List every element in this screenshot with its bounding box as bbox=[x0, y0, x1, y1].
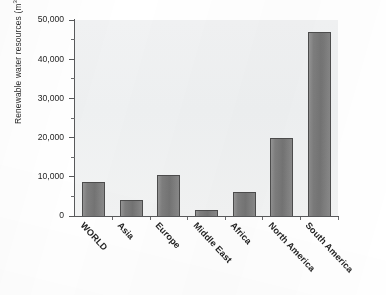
bar bbox=[308, 32, 331, 216]
x-axis-tick bbox=[150, 217, 151, 220]
y-axis-tick-label: 0 bbox=[18, 211, 64, 220]
x-axis-tick bbox=[187, 217, 188, 220]
x-axis-tick-label[interactable]: Asia bbox=[116, 221, 136, 242]
bar bbox=[82, 182, 105, 216]
bar bbox=[233, 192, 256, 216]
y-axis-title-superscript: 3 bbox=[12, 0, 18, 3]
x-axis-tick-label[interactable]: WORLD bbox=[78, 221, 108, 253]
x-axis-tick bbox=[262, 217, 263, 220]
bar-chart-figure: Renewable water resources (m3) per capit… bbox=[0, 0, 386, 295]
x-axis-tick-label[interactable]: Middle East bbox=[191, 221, 233, 265]
x-axis-tick bbox=[225, 217, 226, 220]
y-axis-tick-label: 30,000 bbox=[18, 94, 64, 103]
x-axis-tick-label[interactable]: Europe bbox=[153, 221, 181, 251]
bar bbox=[157, 175, 180, 216]
y-axis-tick-label: 20,000 bbox=[18, 133, 64, 142]
bar bbox=[270, 138, 293, 216]
y-axis-tick-label: 50,000 bbox=[18, 15, 64, 24]
y-axis-tick-label: 10,000 bbox=[18, 172, 64, 181]
x-axis-tick-label[interactable]: Africa bbox=[228, 221, 253, 246]
x-axis-tick bbox=[112, 217, 113, 220]
x-axis-tick bbox=[300, 217, 301, 220]
bar-series bbox=[75, 20, 338, 216]
y-axis-tick-label: 40,000 bbox=[18, 55, 64, 64]
bar bbox=[120, 200, 143, 216]
bar bbox=[195, 210, 218, 216]
x-axis-tick bbox=[338, 217, 339, 220]
